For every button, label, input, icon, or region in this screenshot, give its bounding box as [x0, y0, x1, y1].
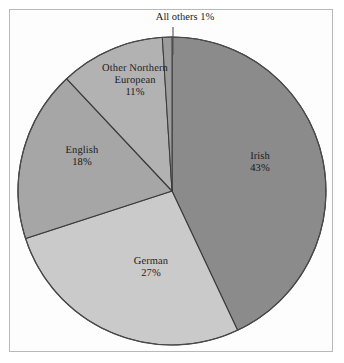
- pie-label-other-northern-european: Other Northern European 11%: [79, 63, 191, 98]
- pie-label-german-name: German: [99, 256, 203, 268]
- pie-label-irish-name: Irish: [215, 151, 305, 163]
- pie-label-all-others-text: All others 1%: [156, 11, 214, 22]
- pie-label-english-name: English: [34, 145, 130, 157]
- pie-chart-canvas: [0, 0, 344, 363]
- pie-label-irish: Irish 43%: [215, 151, 305, 175]
- pie-label-other-northern-european-value: 11%: [79, 87, 191, 99]
- pie-label-irish-value: 43%: [215, 163, 305, 175]
- pie-label-german-value: 27%: [99, 268, 203, 280]
- pie-label-other-northern-european-line2: European: [79, 75, 191, 87]
- pie-label-other-northern-european-line1: Other Northern: [79, 63, 191, 75]
- pie-chart-figure: All others 1% Other Northern European 11…: [0, 0, 344, 363]
- pie-label-english: English 18%: [34, 145, 130, 169]
- pie-label-german: German 27%: [99, 256, 203, 280]
- pie-label-english-value: 18%: [34, 157, 130, 169]
- pie-label-all-others: All others 1%: [130, 11, 240, 23]
